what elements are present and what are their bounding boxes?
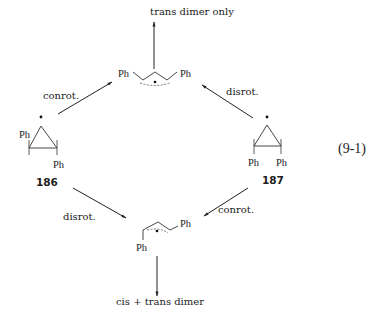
compound-number: 186: [36, 176, 58, 188]
ph-label: Ph: [180, 68, 192, 79]
radical-dot: [40, 116, 43, 119]
ph-label: Ph: [276, 157, 288, 168]
arrow-label-disrot: disrot.: [63, 211, 96, 222]
top-product-label: trans dimer only: [150, 6, 234, 17]
arrow-label-conrot: conrot.: [218, 204, 254, 215]
equation-number: (9-1): [338, 141, 366, 157]
arrow-label-disrot: disrot.: [226, 86, 259, 97]
radical-dot: [156, 230, 159, 233]
arrow-187-to-top: disrot.: [202, 85, 259, 118]
arrow-label-conrot: conrot.: [43, 90, 79, 101]
allyl-radical-bottom: Ph Ph: [136, 218, 192, 253]
ph-label: Ph: [53, 159, 65, 170]
bottom-product-label: cis + trans dimer: [116, 296, 204, 307]
allyl-radical-top: Ph Ph: [118, 68, 192, 86]
compound-number: 187: [262, 174, 284, 186]
compound-187: Ph Ph 187: [248, 116, 288, 186]
ph-label: Ph: [136, 242, 148, 253]
compound-186: Ph Ph 186: [19, 116, 65, 188]
arrow-186-to-top: conrot.: [43, 82, 112, 114]
reaction-diagram: trans dimer only Ph Ph conrot. disrot. P…: [0, 0, 380, 323]
ph-label: Ph: [248, 157, 260, 168]
ph-label: Ph: [118, 68, 130, 79]
arrow-186-to-bottom: disrot.: [63, 188, 126, 222]
radical-dot: [266, 116, 269, 119]
ph-label: Ph: [19, 129, 31, 140]
radical-dot: [154, 81, 157, 84]
arrow-187-to-bottom: conrot.: [204, 188, 254, 216]
reaction-scheme: trans dimer only Ph Ph conrot. disrot. P…: [0, 0, 380, 323]
ph-label: Ph: [180, 218, 192, 229]
